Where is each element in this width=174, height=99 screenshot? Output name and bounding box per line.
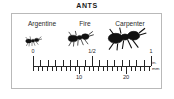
figure-title: ANTS (0, 2, 174, 9)
ruler-inch-tick (151, 56, 152, 66)
ruler-mm-tick (112, 67, 113, 71)
ruler-inch-tick (92, 56, 93, 66)
figure-box: Argentine Fire Carpenter (11, 13, 162, 89)
ruler-unit-inch-label: in. (152, 60, 157, 65)
ruler-mm-tick (93, 67, 94, 71)
ruler-mm-label-20: 20 (118, 74, 134, 80)
ruler-inch-tick (63, 60, 64, 66)
ruler-inch-label-1: 1 (143, 48, 159, 54)
ruler-mm-tick (131, 67, 132, 71)
ruler-inch-tick (122, 60, 123, 66)
ruler-mm-tick (135, 67, 136, 71)
ruler-inch-label-0: 0 (25, 48, 41, 54)
ruler-mm-tick (149, 67, 150, 71)
ant-silhouette-carpenter-icon (106, 27, 148, 55)
ruler-mm-tick (61, 67, 62, 71)
ruler-mm-label-10: 10 (71, 74, 87, 80)
ruler-mm-tick (70, 67, 71, 71)
ruler-mm-tick (117, 67, 118, 71)
ruler-mm-tick (38, 67, 39, 71)
ruler-mm-tick (42, 67, 43, 71)
ruler-inch-tick (55, 60, 56, 66)
ruler-inch-tick (40, 60, 41, 66)
species-label-carpenter: Carpenter (104, 20, 156, 27)
ruler-mm-tick (84, 67, 85, 71)
ruler-mm-tick (126, 67, 127, 74)
ruler-inch-tick (136, 60, 137, 66)
ruler-mm-tick (79, 67, 80, 74)
ruler-inch-tick (107, 60, 108, 66)
ruler-mm-tick (98, 67, 99, 71)
ruler-mm-tick (89, 67, 90, 71)
ruler-unit-mm-label: mm (152, 66, 159, 71)
ruler-inch-tick (114, 60, 115, 66)
ruler-inch-tick (129, 60, 130, 66)
ruler-inch-tick (70, 60, 71, 66)
ruler-mm-tick (52, 67, 53, 71)
ruler-mm-tick (33, 67, 34, 71)
species-label-argentine: Argentine (19, 20, 65, 27)
ruler-mm-tick (107, 67, 108, 71)
ruler-inch-tick (99, 60, 100, 66)
ruler-inch-tick (85, 60, 86, 66)
ruler-inch-label-half: 1/2 (84, 48, 100, 54)
ruler-mm-tick (144, 67, 145, 71)
ruler-inch-tick (144, 60, 145, 66)
ruler-mm-tick (140, 67, 141, 71)
ruler-mm-tick (75, 67, 76, 71)
ruler-inch-tick (33, 56, 34, 66)
ruler-inch-tick (48, 60, 49, 66)
ruler-inch-tick (77, 60, 78, 66)
ruler-mm-tick (103, 67, 104, 71)
species-label-fire: Fire (67, 20, 103, 27)
ruler-mm-tick (121, 67, 122, 71)
ruler-mm-tick (56, 67, 57, 71)
ruler-mm-tick (66, 67, 67, 71)
ruler: 0 1/2 1 10 20 in. mm (33, 55, 151, 85)
ruler-mm-tick (47, 67, 48, 71)
